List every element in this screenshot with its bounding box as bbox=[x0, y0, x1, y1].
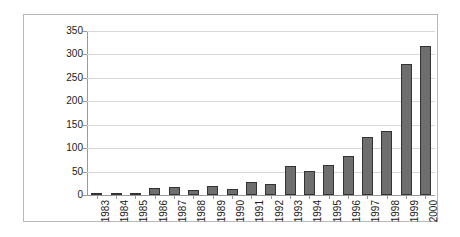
bar bbox=[285, 166, 296, 195]
x-tick-mark bbox=[155, 195, 156, 199]
y-tick-mark-200 bbox=[83, 101, 87, 102]
y-tick-mark-250 bbox=[83, 78, 87, 79]
y-tick-mark-350 bbox=[83, 31, 87, 32]
x-tick-label: 1989 bbox=[217, 200, 227, 222]
bar bbox=[343, 156, 354, 195]
bar bbox=[323, 165, 334, 195]
bar bbox=[381, 131, 392, 195]
x-tick-label: 1996 bbox=[352, 200, 362, 222]
x-tick-mark bbox=[406, 195, 407, 199]
x-tick-label: 1983 bbox=[101, 200, 111, 222]
x-tick-mark bbox=[251, 195, 252, 199]
x-tick-mark bbox=[348, 195, 349, 199]
bar bbox=[401, 64, 412, 195]
y-tick-mark-100 bbox=[83, 148, 87, 149]
y-tick-mark-300 bbox=[83, 54, 87, 55]
x-tick-mark bbox=[329, 195, 330, 199]
chart-frame: 050100150200250300350 198319841985198619… bbox=[23, 14, 438, 222]
y-axis-tick-labels: 050100150200250300350 bbox=[47, 31, 83, 195]
x-tick-mark bbox=[97, 195, 98, 199]
y-tick-mark-150 bbox=[83, 125, 87, 126]
x-tick-label: 1987 bbox=[178, 200, 188, 222]
x-tick-label: 1990 bbox=[236, 200, 246, 222]
x-tick-mark bbox=[387, 195, 388, 199]
y-tick-label: 350 bbox=[66, 26, 83, 36]
x-tick-mark bbox=[116, 195, 117, 199]
bar bbox=[304, 171, 315, 195]
y-tick-mark-50 bbox=[83, 172, 87, 173]
x-tick-label: 1999 bbox=[410, 200, 420, 222]
x-tick-mark bbox=[135, 195, 136, 199]
x-tick-mark bbox=[213, 195, 214, 199]
x-tick-label: 1985 bbox=[139, 200, 149, 222]
x-tick-label: 1986 bbox=[159, 200, 169, 222]
x-tick-label: 1988 bbox=[197, 200, 207, 222]
bar bbox=[169, 187, 180, 195]
x-tick-label: 1997 bbox=[371, 200, 381, 222]
x-tick-mark bbox=[271, 195, 272, 199]
x-tick-mark bbox=[174, 195, 175, 199]
y-tick-label: 150 bbox=[66, 120, 83, 130]
x-tick-mark bbox=[193, 195, 194, 199]
bar bbox=[420, 46, 431, 195]
x-tick-mark bbox=[309, 195, 310, 199]
gridline-y-250 bbox=[87, 78, 435, 79]
x-tick-mark bbox=[232, 195, 233, 199]
x-tick-label: 1991 bbox=[255, 200, 265, 222]
x-axis-tick-labels: 1983198419851986198719881989199019911992… bbox=[87, 200, 435, 234]
bar bbox=[207, 186, 218, 195]
gridline-y-200 bbox=[87, 101, 435, 102]
bar bbox=[362, 137, 373, 195]
x-tick-label: 2000 bbox=[429, 200, 439, 222]
x-tick-label: 1995 bbox=[333, 200, 343, 222]
bar bbox=[265, 184, 276, 195]
x-tick-mark bbox=[290, 195, 291, 199]
plot-area bbox=[87, 31, 435, 195]
x-tick-label: 1994 bbox=[313, 200, 323, 222]
x-tick-label: 1992 bbox=[275, 200, 285, 222]
y-tick-label: 250 bbox=[66, 73, 83, 83]
gridline-y-150 bbox=[87, 125, 435, 126]
x-tick-label: 1998 bbox=[391, 200, 401, 222]
x-tick-label: 1984 bbox=[120, 200, 130, 222]
bar bbox=[246, 182, 257, 195]
x-tick-mark bbox=[367, 195, 368, 199]
gridline-y-350 bbox=[87, 31, 435, 32]
y-tick-label: 50 bbox=[72, 167, 83, 177]
bar bbox=[149, 188, 160, 195]
x-tick-label: 1993 bbox=[294, 200, 304, 222]
gridline-y-300 bbox=[87, 54, 435, 55]
y-tick-label: 300 bbox=[66, 49, 83, 59]
y-tick-label: 200 bbox=[66, 96, 83, 106]
x-tick-mark bbox=[425, 195, 426, 199]
y-tick-label: 100 bbox=[66, 143, 83, 153]
